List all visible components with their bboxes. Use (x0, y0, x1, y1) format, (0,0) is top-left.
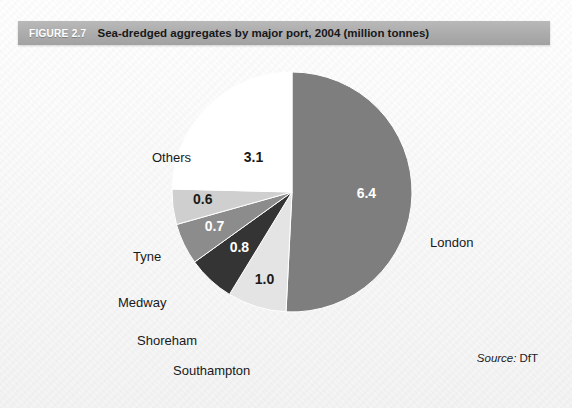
source-attribution: Source:DfT (477, 352, 538, 364)
source-label: Source: (477, 352, 517, 364)
pie-slice-others (172, 72, 292, 192)
pie-value-southampton: 1.0 (255, 271, 275, 287)
figure-number-label: FIGURE 2.7 (29, 28, 86, 39)
figure-header-band: FIGURE 2.7 Sea-dredged aggregates by maj… (18, 21, 550, 45)
pie-label-tyne: Tyne (133, 249, 161, 264)
pie-label-shoreham: Shoreham (137, 333, 197, 348)
pie-chart-area: 6.41.00.80.70.63.1 London Others Tyne Me… (0, 50, 572, 350)
pie-value-tyne: 0.6 (193, 191, 213, 207)
pie-label-southampton: Southampton (173, 363, 250, 378)
pie-label-others: Others (152, 150, 191, 165)
pie-chart-svg: 6.41.00.80.70.63.1 (0, 50, 572, 350)
figure-container: FIGURE 2.7 Sea-dredged aggregates by maj… (0, 0, 572, 408)
pie-value-medway: 0.7 (205, 218, 225, 234)
pie-slice-london (286, 72, 412, 312)
pie-label-london: London (430, 235, 473, 250)
pie-value-london: 6.4 (357, 185, 377, 201)
pie-label-medway: Medway (118, 295, 166, 310)
pie-value-others: 3.1 (244, 149, 264, 165)
source-value: DfT (519, 352, 538, 364)
figure-title: Sea-dredged aggregates by major port, 20… (97, 27, 429, 39)
pie-value-shoreham: 0.8 (230, 239, 250, 255)
